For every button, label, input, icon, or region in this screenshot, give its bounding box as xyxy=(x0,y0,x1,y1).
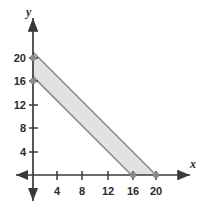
y-axis-label: y xyxy=(26,6,31,18)
y-tick-label-8: 8 xyxy=(20,123,26,134)
x-tick-label-8: 8 xyxy=(79,186,85,197)
y-axis-down-arrow-icon xyxy=(28,188,38,201)
x-axis-label: x xyxy=(190,158,196,170)
y-tick-label-4: 4 xyxy=(20,147,26,158)
x-axis-right-arrow-icon xyxy=(178,170,190,180)
x-tick-label-20: 20 xyxy=(150,186,162,197)
coordinate-graph-figure: 20 16 12 8 4 4 8 12 16 20 y x xyxy=(0,0,210,208)
x-axis-left-arrow-icon xyxy=(16,170,28,180)
lower-boundary-line xyxy=(33,77,131,175)
y-tick-label-20: 20 xyxy=(14,53,26,64)
vertex-marker-20-0 xyxy=(153,172,159,178)
y-tick-label-16: 16 xyxy=(14,76,26,87)
vertex-marker-0-16 xyxy=(30,78,36,84)
vertex-marker-16-0 xyxy=(130,172,136,178)
upper-boundary-line xyxy=(33,52,156,175)
x-tick-label-4: 4 xyxy=(54,186,60,197)
x-tick-label-12: 12 xyxy=(102,186,114,197)
vertex-marker-0-20 xyxy=(30,55,36,61)
plot-canvas xyxy=(0,0,210,208)
x-tick-label-16: 16 xyxy=(127,186,139,197)
y-tick-label-12: 12 xyxy=(14,100,26,111)
y-axis-up-arrow-icon xyxy=(28,18,38,31)
